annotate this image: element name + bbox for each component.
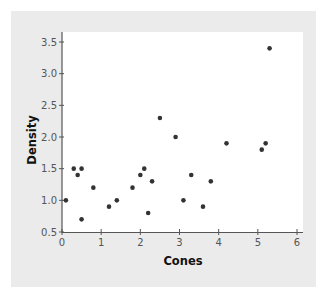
data-point bbox=[64, 198, 69, 203]
y-axis-title: Density bbox=[25, 115, 39, 165]
data-point bbox=[79, 217, 84, 222]
data-point bbox=[115, 198, 120, 203]
x-tick-label: 6 bbox=[294, 237, 300, 248]
x-tick-label: 1 bbox=[98, 237, 104, 248]
x-tick-label: 2 bbox=[137, 237, 143, 248]
data-point bbox=[189, 173, 194, 178]
y-tick-label: 2.0 bbox=[41, 132, 57, 143]
data-point bbox=[173, 135, 178, 140]
data-point bbox=[181, 198, 186, 203]
data-point bbox=[224, 141, 229, 146]
y-tick-label: 3.5 bbox=[41, 37, 57, 48]
x-tick-label: 0 bbox=[59, 237, 65, 248]
data-point bbox=[150, 179, 155, 184]
x-tick-label: 4 bbox=[215, 237, 221, 248]
x-tick-label: 5 bbox=[255, 237, 261, 248]
data-point bbox=[75, 173, 80, 178]
data-point bbox=[107, 204, 112, 209]
data-point bbox=[158, 116, 163, 121]
data-points bbox=[64, 46, 272, 222]
data-point bbox=[201, 204, 206, 209]
data-point bbox=[259, 147, 264, 152]
y-tick-label: 1.0 bbox=[41, 195, 57, 206]
scatter-chart: 01234560.51.01.52.02.53.03.5 Cones Densi… bbox=[0, 0, 327, 296]
data-point bbox=[142, 166, 147, 171]
x-axis-title: Cones bbox=[163, 254, 202, 268]
y-tick-label: 3.0 bbox=[41, 68, 57, 79]
data-point bbox=[130, 185, 135, 190]
y-tick-label: 2.5 bbox=[41, 100, 57, 111]
data-point bbox=[209, 179, 214, 184]
axes: 01234560.51.01.52.02.53.03.5 bbox=[41, 32, 303, 248]
data-point bbox=[79, 166, 84, 171]
data-point bbox=[138, 173, 143, 178]
data-point bbox=[71, 166, 76, 171]
data-point bbox=[263, 141, 268, 146]
data-point bbox=[146, 211, 151, 216]
y-tick-label: 1.5 bbox=[41, 163, 57, 174]
y-tick-label: 0.5 bbox=[41, 227, 57, 238]
data-point bbox=[91, 185, 96, 190]
x-tick-label: 3 bbox=[176, 237, 182, 248]
data-point bbox=[267, 46, 272, 51]
